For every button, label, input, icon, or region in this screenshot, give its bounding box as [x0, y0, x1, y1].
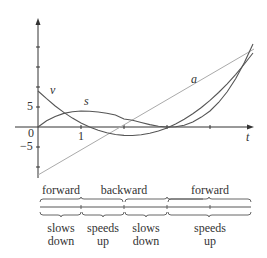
direction-label-backward: backward	[98, 184, 150, 197]
a-curve-label: a	[191, 73, 197, 86]
s-curve	[38, 44, 253, 127]
s-curve-label: s	[84, 95, 89, 108]
y-axis-arrow-icon	[36, 18, 41, 25]
tick-label-five: 5	[27, 100, 33, 113]
direction-label-forward-1: forward	[40, 184, 82, 197]
tick-label-neg-five: −5	[20, 140, 33, 153]
speed-label-speeds-up-2: speeds up	[187, 222, 233, 248]
speed-label-slows-down-2: slows down	[125, 222, 167, 248]
direction-label-forward-2: forward	[187, 184, 233, 197]
v-curve-label: v	[50, 84, 55, 97]
t-axis-label: t	[246, 131, 249, 144]
t-axis-arrow-icon	[247, 125, 254, 130]
tick-label-one: 1	[78, 130, 84, 143]
speed-label-speeds-up-1: speeds up	[82, 222, 124, 248]
speed-label-slows-down-1: slows down	[40, 222, 82, 248]
motion-brackets	[40, 197, 251, 217]
motion-graph	[0, 0, 267, 258]
